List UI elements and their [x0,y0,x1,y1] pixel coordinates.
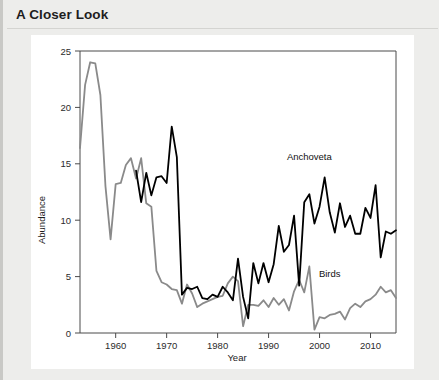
abundance-line-chart: 196019701980199020002010 0510152025 Anch… [31,35,414,369]
x-axis-ticks: 196019701980199020002010 [105,333,381,351]
x-tick-label: 2000 [309,340,330,351]
y-tick-label: 15 [60,158,71,169]
y-tick-label: 0 [66,328,71,339]
annotation-anchoveta: Anchoveta [287,151,333,162]
x-tick-label: 1960 [105,340,126,351]
figure-card: A Closer Look 196019701980199020002010 0… [0,0,439,380]
y-tick-label: 20 [60,102,71,113]
y-tick-label: 5 [66,271,71,282]
x-axis-title: Year [227,352,246,363]
y-axis-title: Abundance [36,196,47,244]
x-tick-label: 2010 [360,340,381,351]
title-divider [7,28,438,29]
y-tick-label: 10 [60,215,71,226]
annotation-birds: Birds [319,268,341,279]
plot-panel: 196019701980199020002010 0510152025 Anch… [31,35,414,369]
y-axis-ticks: 0510152025 [60,46,80,339]
plot-border [80,51,396,333]
x-tick-label: 1970 [156,340,177,351]
figure-title: A Closer Look [16,7,108,22]
x-tick-label: 1980 [207,340,228,351]
data-series-group [80,62,396,329]
series-line-birds [80,62,396,329]
plot-frame [80,51,396,333]
y-tick-label: 25 [60,46,71,57]
x-tick-label: 1990 [258,340,279,351]
